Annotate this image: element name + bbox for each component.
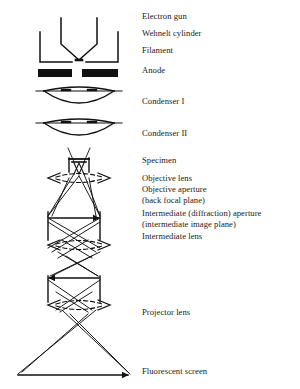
- screen-projection-rays: [18, 310, 130, 374]
- condenser-1-lens-shape: [36, 87, 122, 103]
- label-projector-lens: Projector lens: [142, 307, 190, 317]
- label-fluorescent-screen: Fluorescent screen: [142, 366, 207, 376]
- label-specimen: Specimen: [142, 155, 176, 165]
- label-intermediate-aperture: Intermediate (diffraction) aperture: [142, 208, 261, 218]
- objective-ray-paths: [48, 174, 100, 216]
- label-anode: Anode: [142, 65, 165, 75]
- label-condenser-2: Condenser II: [142, 128, 187, 138]
- label-back-focal-plane: (back focal plane): [142, 195, 205, 205]
- label-objective-lens: Objective lens: [142, 173, 192, 183]
- label-condenser-1: Condenser I: [142, 96, 184, 106]
- back-focal-plane-shape: [48, 212, 100, 240]
- specimen-holder-shape: [69, 158, 89, 174]
- filament-shape: [61, 18, 97, 60]
- intermediate-image-rays: [50, 252, 100, 276]
- label-intermediate-image-plane: (intermediate image plane): [142, 219, 236, 229]
- label-objective-aperture: Objective aperture: [142, 184, 207, 194]
- anode-shape: [38, 69, 118, 77]
- bfp-to-intermediate-rays: [48, 218, 100, 258]
- label-filament: Filament: [142, 45, 173, 55]
- wehnelt-cylinder-shape: [40, 32, 118, 62]
- label-intermediate-lens: Intermediate lens: [142, 231, 202, 241]
- condenser-2-lens-shape: [36, 119, 122, 135]
- projector-entry-rays: [48, 280, 100, 312]
- label-electron-gun: Electron gun: [142, 11, 187, 21]
- tem-ray-diagram-page: Electron gun Wehnelt cylinder Filament A…: [0, 0, 300, 389]
- label-wehnelt-cylinder: Wehnelt cylinder: [142, 28, 202, 38]
